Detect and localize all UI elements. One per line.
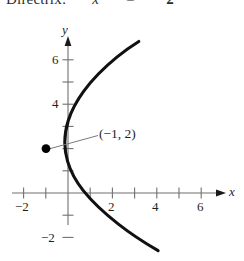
y-tick-label-4: 4 — [52, 96, 59, 112]
x-tick-label-6: 6 — [197, 199, 204, 215]
x-axis-arrow-icon — [216, 190, 226, 197]
y-tick-label-neg2: −2 — [41, 230, 55, 246]
point-leader-line — [50, 136, 99, 149]
figure-screenshot: Directrix:x=−2 — [0, 0, 244, 261]
x-tick-label-4: 4 — [152, 199, 159, 215]
y-axis-label: y — [62, 22, 68, 38]
parabola-curve — [65, 42, 158, 251]
vertex-point-marker — [42, 144, 51, 153]
point-annotation-label: (−1, 2) — [99, 126, 136, 142]
x-axis-label: x — [229, 184, 235, 200]
x-tick-label-neg2: −2 — [15, 199, 29, 215]
x-tick-label-2: 2 — [108, 199, 115, 215]
y-tick-label-6: 6 — [52, 52, 59, 68]
